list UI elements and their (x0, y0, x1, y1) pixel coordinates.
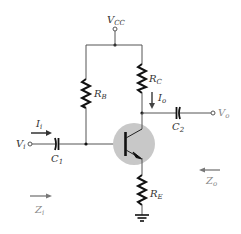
base-junction-dot (84, 142, 87, 145)
io-label: Io (157, 92, 166, 105)
vo-label: Vo (218, 107, 229, 120)
vi-label: Vi (16, 138, 25, 151)
io-current-arrow: Io (149, 92, 166, 109)
re-resistor: RE (138, 175, 163, 215)
circuit-diagram: VCC RB RC Io C2 Vo Vi (0, 0, 241, 234)
ii-label: Ii (35, 118, 42, 131)
zo-label: Zo (205, 175, 217, 188)
c2-capacitor (177, 107, 181, 119)
c2-label: C2 (172, 121, 185, 134)
c1-label: C1 (51, 153, 63, 166)
transistor-highlight (113, 123, 155, 165)
vi-terminal (28, 142, 32, 146)
input-network: Vi C1 (16, 138, 124, 166)
rb-label: RB (93, 88, 107, 101)
zi-label: Zi (34, 204, 44, 217)
re-label: RE (149, 188, 163, 201)
zi-impedance-arrow: Zi (30, 194, 52, 218)
c1-capacitor (55, 138, 59, 150)
vcc-supply: VCC (86, 14, 142, 47)
ground-icon (135, 215, 149, 221)
output-network: C2 Vo (140, 107, 229, 134)
ii-current-arrow: Ii (31, 118, 52, 136)
rb-resistor: RB (82, 45, 107, 144)
vcc-label: VCC (107, 14, 126, 27)
vo-terminal (211, 111, 215, 115)
zo-impedance-arrow: Zo (199, 168, 220, 189)
npn-transistor (113, 113, 155, 175)
vcc-terminal (113, 27, 117, 31)
rc-label: RC (148, 73, 163, 86)
